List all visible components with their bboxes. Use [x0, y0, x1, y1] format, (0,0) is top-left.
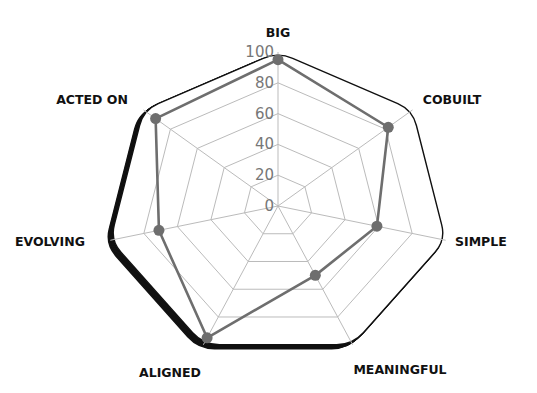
data-point[interactable]: [371, 221, 382, 232]
data-point[interactable]: [310, 270, 321, 281]
axis-label-aligned: ALIGNED: [139, 365, 201, 380]
radar-chart: 020406080100 BIGCOBUILTSIMPLEMEANINGFULA…: [0, 0, 537, 393]
axis-label-big: BIG: [266, 25, 290, 40]
data-point[interactable]: [383, 122, 394, 133]
axis-label-cobuilt: COBUILT: [423, 92, 482, 107]
axis-label-meaningful: MEANINGFUL: [353, 362, 446, 377]
tick-label: 60: [255, 105, 274, 123]
tick-label: 40: [255, 135, 274, 153]
axis-label-simple: SIMPLE: [455, 234, 507, 249]
axis-label-acted-on: ACTED ON: [56, 92, 128, 107]
tick-label: 100: [245, 43, 274, 61]
data-point[interactable]: [202, 332, 213, 343]
tick-label: 20: [255, 166, 274, 184]
tick-label: 80: [255, 74, 274, 92]
data-point[interactable]: [150, 113, 161, 124]
data-point[interactable]: [273, 54, 284, 65]
axis-label-evolving: EVOLVING: [15, 234, 85, 249]
tick-label: 0: [264, 197, 274, 215]
data-point[interactable]: [153, 225, 164, 236]
